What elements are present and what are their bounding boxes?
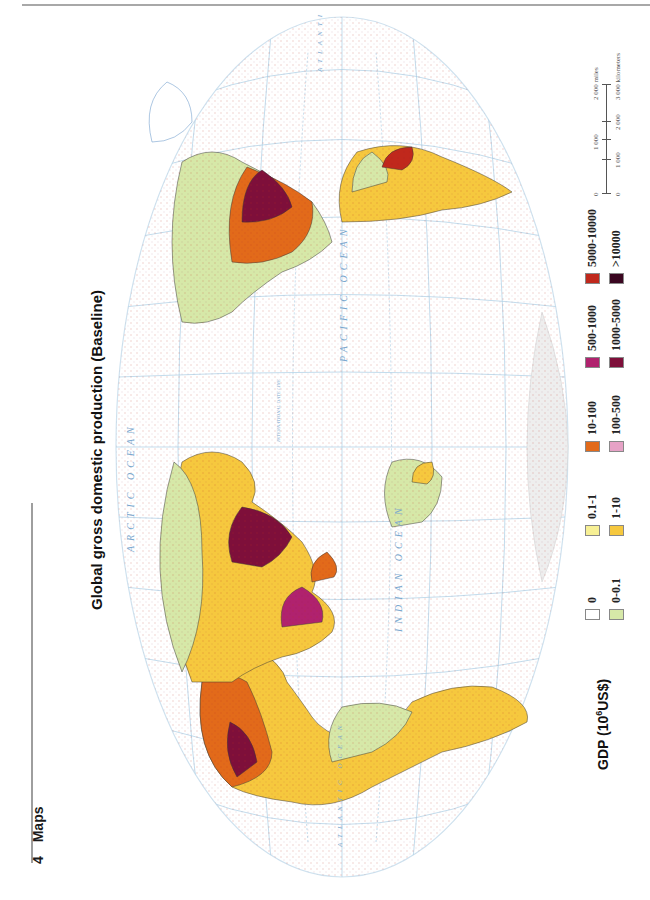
label-indian-ocean: INDIAN OCEAN (393, 503, 404, 633)
legend-swatch (585, 357, 600, 368)
label-arctic-ocean: ARCTIC OCEAN (125, 422, 136, 553)
legend-item: 0.1-1 (580, 452, 604, 536)
legend-swatch (585, 273, 600, 284)
legend-item: >10000 (604, 200, 628, 284)
label-atlantic-ocean-east: ATLANTIC OCEAN (316, 12, 324, 73)
legend-swatch (585, 609, 600, 620)
legend-swatch (609, 273, 624, 284)
legend-item: 500-1000 (580, 284, 604, 368)
legend-swatch (609, 441, 624, 452)
legend-title: GDP (106US$) (594, 679, 611, 770)
legend-item: 100-500 (604, 368, 628, 452)
legend-item: 1-10 (604, 452, 628, 536)
legend-swatch (609, 609, 624, 620)
legend-item: 0-0.1 (604, 536, 628, 620)
scale-bar: 0 1 000 2 000 miles 0 1 000 2 000 3 000 … (586, 40, 636, 200)
section-title: Maps (30, 807, 46, 843)
legend-swatch (585, 441, 600, 452)
legend-item: 5000-10000 (580, 200, 604, 284)
legend-item: 10-100 (580, 368, 604, 452)
label-pacific-ocean: PACIFIC OCEAN (338, 225, 349, 363)
legend: GDP (106US$) 0 0.1-1 10-100 500-1000 500… (580, 210, 636, 770)
section-number: 4 (30, 856, 46, 864)
rotated-page: 4 Maps Global gross domestic production … (0, 0, 650, 900)
label-date-line: INTERNATIONAL DATE LINE (276, 379, 281, 443)
world-map-svg: ARCTIC OCEAN PACIFIC OCEAN INDIAN OCEAN … (112, 12, 572, 882)
legend-swatch (585, 525, 600, 536)
legend-swatch (609, 525, 624, 536)
legend-swatch (609, 357, 624, 368)
section-header: 4 Maps (30, 807, 46, 864)
legend-item: 0 (580, 536, 604, 620)
legend-grid: 0 0.1-1 10-100 500-1000 5000-10000 0-0.1… (580, 200, 628, 620)
legend-item: 1000-5000 (604, 284, 628, 368)
map-title: Global gross domestic production (Baseli… (88, 0, 105, 900)
world-map: ARCTIC OCEAN PACIFIC OCEAN INDIAN OCEAN … (112, 12, 572, 882)
label-atlantic-ocean-west: ATLANTIC OCEAN (336, 721, 344, 848)
